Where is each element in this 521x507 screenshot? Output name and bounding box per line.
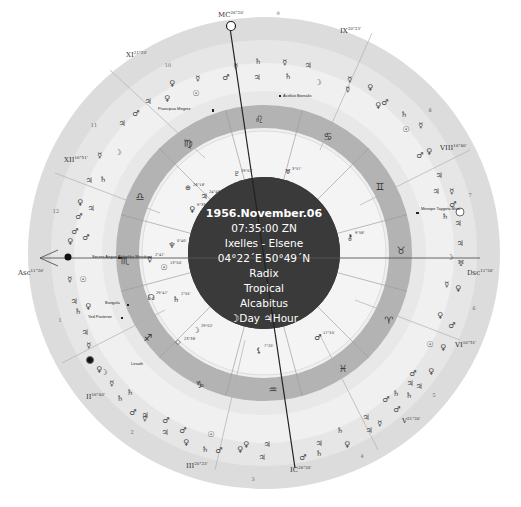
svg-text:♂: ♂: [449, 200, 456, 209]
svg-text:♃: ♃: [161, 428, 168, 437]
sign-sagittarius-icon: ♐: [144, 332, 153, 343]
sign-leo-icon: ♌: [255, 114, 264, 125]
svg-text:♄: ♄: [99, 175, 106, 184]
planet-north-node-icon: ☊: [147, 293, 154, 302]
svg-text:♀: ♀: [164, 94, 170, 103]
svg-text:♃: ♃: [432, 187, 439, 196]
svg-text:♃: ♃: [456, 239, 463, 248]
svg-text:☿: ☿: [378, 419, 383, 428]
svg-text:♄: ♄: [126, 388, 133, 397]
svg-text:☉: ☉: [79, 275, 86, 284]
svg-text:☿: ☿: [234, 62, 239, 71]
house-number-6: 6: [472, 305, 475, 311]
svg-text:♀: ♀: [428, 367, 434, 376]
planet-mars-icon: ♂: [314, 333, 321, 342]
chiron-icon: ⚷: [347, 233, 353, 242]
svg-text:♀: ♀: [375, 101, 381, 110]
svg-text:☽: ☽: [446, 253, 453, 262]
svg-text:♃: ♃: [435, 171, 442, 180]
chart-coordinates: 04°22´E 50°49´N: [218, 252, 310, 264]
sign-libra-icon: ♎: [136, 191, 145, 202]
svg-text:☿: ☿: [98, 151, 103, 160]
planet-pars-fortunae-icon: ⊕: [185, 184, 191, 192]
svg-text:♀: ♀: [67, 237, 73, 246]
svg-text:♄: ♄: [400, 110, 407, 119]
svg-text:☿: ☿: [283, 58, 288, 67]
svg-text:♃: ♃: [454, 219, 461, 228]
planet-neptune-icon: ♆: [168, 241, 175, 250]
chiron-degree: 9°58': [355, 231, 365, 235]
svg-text:♄: ♄: [284, 72, 291, 81]
sign-aquarius-icon: ♒: [269, 384, 278, 395]
svg-text:♂: ♂: [299, 453, 306, 462]
svg-text:☿: ☿: [419, 121, 424, 130]
svg-text:♂: ♂: [82, 233, 89, 242]
svg-text:♃: ♃: [415, 382, 422, 391]
svg-text:♂: ♂: [416, 151, 423, 160]
house-number-10: 10: [165, 62, 171, 68]
chart-type: Radix: [249, 267, 278, 279]
svg-text:☿: ☿: [450, 187, 455, 196]
svg-text:☿: ☿: [348, 75, 353, 84]
svg-text:♃: ♃: [87, 204, 94, 213]
svg-text:♂: ♂: [215, 446, 222, 455]
zodiac-type: Tropical: [243, 282, 284, 294]
svg-text:♂: ♂: [448, 321, 455, 330]
house-number-9: 9: [276, 10, 279, 16]
house-number-3: 3: [251, 476, 254, 482]
planet-moon-icon: ☽: [192, 326, 199, 335]
mc-label: MC26°20': [218, 10, 244, 19]
svg-text:♃: ♃: [258, 453, 265, 462]
planet-pluto-icon: ♇: [234, 170, 240, 178]
svg-text:☉: ☉: [426, 340, 433, 349]
svg-text:☿: ☿: [143, 414, 148, 423]
svg-text:♄: ♄: [74, 307, 81, 316]
sign-gemini-icon: ♊: [376, 181, 385, 192]
house-number-2: 2: [130, 429, 133, 435]
svg-text:♃: ♃: [70, 297, 77, 306]
planet-pluto-degree: 29°02': [241, 169, 253, 173]
svg-text:♀: ♀: [237, 445, 243, 454]
svg-text:♄: ♄: [201, 445, 208, 454]
sign-cancer-icon: ♋: [324, 131, 333, 142]
planet-neptune-degree: 0°40': [177, 239, 187, 243]
star-yed-posterior: Yed Posterior: [88, 314, 113, 319]
star-secrex-aegae: Secrex Aegae Alphekka Meridiani: [92, 254, 152, 259]
planet-mars-degree: 17°55': [323, 331, 335, 335]
svg-text:♄: ♄: [254, 57, 261, 66]
planet-venus-degree: 9°33': [197, 203, 207, 207]
mc-marker-icon: [227, 22, 236, 31]
svg-text:♀: ♀: [183, 438, 189, 447]
planet-jupiter-degree: 24°48': [209, 190, 221, 194]
planet-saturn-icon: ♄: [172, 295, 179, 304]
chart-date: 1956.November.06: [206, 207, 323, 220]
svg-text:♀: ♀: [344, 440, 350, 449]
house-number-5: 5: [432, 392, 435, 398]
svg-text:♃: ♃: [365, 426, 372, 435]
lilith-icon: ⚸: [256, 346, 262, 355]
sign-capricorn-icon: ♑: [196, 379, 205, 390]
svg-text:♂: ♂: [162, 416, 169, 425]
svg-text:☉: ☉: [192, 89, 199, 98]
day-hour-ruler: ☽Day ♃Hour: [230, 312, 299, 324]
svg-text:☽: ☽: [114, 148, 121, 157]
planet-sun-degree: 13°50': [170, 261, 182, 265]
svg-text:♃: ♃: [85, 176, 92, 185]
svg-text:☽: ☽: [314, 78, 321, 87]
svg-text:♂: ♂: [382, 395, 389, 404]
planet-pars-fortunae-degree: 26°18': [193, 183, 205, 187]
svg-text:☿: ☿: [68, 275, 73, 284]
sign-taurus-icon: ♉: [397, 245, 406, 256]
svg-text:♄: ♄: [116, 394, 123, 403]
star-acelius-borealis: Acelius Borealis: [283, 93, 311, 98]
svg-text:☿: ☿: [110, 379, 115, 388]
star-lesath: Lesath: [131, 361, 143, 366]
svg-text:♄: ♄: [336, 426, 343, 435]
svg-text:♂: ♂: [222, 73, 229, 82]
svg-text:♃: ♃: [304, 61, 311, 70]
house-number-7: 7: [468, 192, 471, 198]
svg-text:♂: ♂: [409, 369, 416, 378]
sign-virgo-icon: ♍: [184, 138, 193, 149]
svg-text:♄: ♄: [315, 449, 322, 458]
svg-text:♀: ♀: [455, 284, 461, 293]
